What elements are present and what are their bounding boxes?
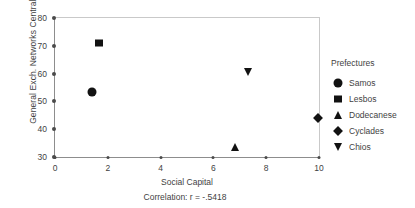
legend-item-dodecanese[interactable]: Dodecanese <box>331 107 415 123</box>
y-axis-tick: 80 <box>52 16 56 20</box>
legend-items: SamosLesbosDodecaneseCycladesChios <box>331 75 415 155</box>
y-axis-tick-label: 50 <box>38 96 47 106</box>
x-axis-tick: 4 <box>159 156 162 159</box>
legend: Prefectures SamosLesbosDodecaneseCyclade… <box>331 58 415 155</box>
plot-area: 3040506070800246810 <box>54 17 320 158</box>
legend-item-label: Samos <box>349 78 375 88</box>
legend-item-label: Chios <box>349 142 371 152</box>
square-marker-icon <box>95 40 103 47</box>
diamond-marker-icon <box>331 125 344 138</box>
x-axis-tick-label: 10 <box>314 163 323 173</box>
y-axis-tick-label: 60 <box>38 69 47 79</box>
scatter-plot-figure: General Exch. Networks Centrality 304050… <box>0 0 415 208</box>
y-axis-tick-label: 30 <box>38 152 47 162</box>
legend-item-lesbos[interactable]: Lesbos <box>331 91 415 107</box>
legend-item-label: Dodecanese <box>349 110 397 120</box>
diamond-marker-icon <box>313 113 323 123</box>
x-axis-tick-label: 6 <box>211 163 216 173</box>
triangle-up-marker-icon <box>231 143 239 151</box>
y-axis-tick: 70 <box>52 44 56 48</box>
legend-item-label: Cyclades <box>349 126 384 136</box>
y-axis-tick-label: 70 <box>38 41 47 51</box>
triangle-up-marker-icon <box>331 109 344 122</box>
x-axis-tick-label: 2 <box>105 163 110 173</box>
x-axis-tick: 8 <box>265 156 268 159</box>
triangle-down-marker-icon <box>331 141 344 154</box>
legend-title: Prefectures <box>331 58 415 68</box>
x-axis-tick-label: 0 <box>53 163 58 173</box>
y-axis-tick-label: 40 <box>38 124 47 134</box>
x-axis-tick: 2 <box>106 156 109 159</box>
circle-marker-icon <box>87 87 96 96</box>
x-axis-tick: 6 <box>212 156 215 159</box>
x-axis-tick-label: 8 <box>264 163 269 173</box>
x-axis-tick: 0 <box>54 156 57 159</box>
y-axis-title: General Exch. Networks Centrality <box>29 0 38 137</box>
legend-item-chios[interactable]: Chios <box>331 139 415 155</box>
x-axis-tick-label: 4 <box>158 163 163 173</box>
legend-item-samos[interactable]: Samos <box>331 75 415 91</box>
y-axis-tick-label: 80 <box>38 13 47 23</box>
x-axis-title: Social Capital <box>54 177 320 187</box>
y-axis-tick: 50 <box>52 99 56 103</box>
legend-item-cyclades[interactable]: Cyclades <box>331 123 415 139</box>
square-marker-icon <box>331 93 344 106</box>
circle-marker-icon <box>331 77 344 90</box>
correlation-caption: Correlation: r = -.5418 <box>40 192 330 202</box>
x-axis-tick: 10 <box>318 156 321 159</box>
legend-item-label: Lesbos <box>349 94 376 104</box>
y-axis-tick: 40 <box>52 127 56 131</box>
y-axis-tick: 60 <box>52 72 56 76</box>
triangle-down-marker-icon <box>244 68 252 76</box>
